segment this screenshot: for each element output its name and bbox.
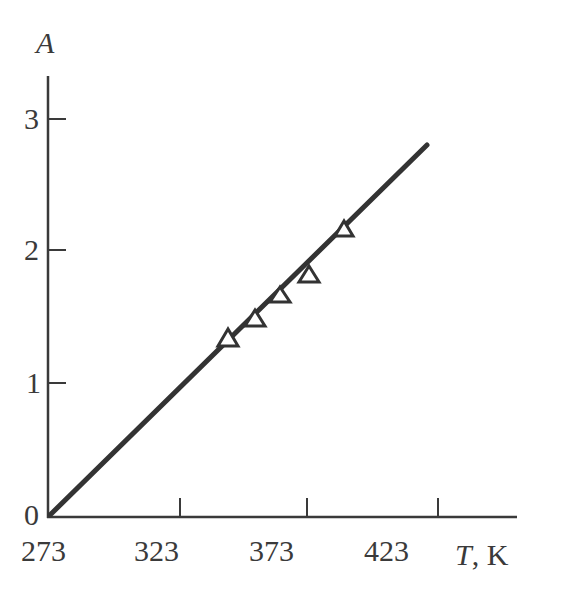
y-axis-label: A bbox=[36, 28, 54, 58]
y-tick-label-0: 0 bbox=[24, 500, 39, 530]
x-axis-variable: T bbox=[455, 538, 472, 571]
fit-line bbox=[50, 145, 427, 515]
x-tick-label-373: 373 bbox=[249, 536, 294, 566]
x-axis-label: T, K bbox=[455, 540, 508, 570]
x-tick-label-323: 323 bbox=[134, 536, 179, 566]
x-tick-label-273: 273 bbox=[21, 536, 66, 566]
x-axis-unit: , K bbox=[472, 538, 509, 571]
chart-canvas bbox=[0, 0, 588, 590]
x-tick-label-423: 423 bbox=[364, 536, 409, 566]
y-tick-label-3: 3 bbox=[24, 104, 39, 134]
y-tick-label-1: 1 bbox=[26, 368, 41, 398]
y-tick-label-2: 2 bbox=[24, 235, 39, 265]
